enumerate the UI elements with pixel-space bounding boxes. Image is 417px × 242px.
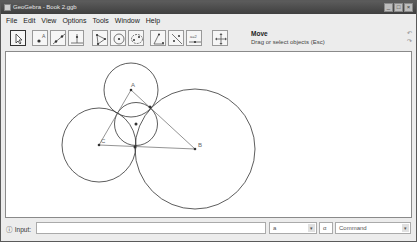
move-graphics-icon — [213, 31, 229, 47]
angle-icon — [151, 31, 167, 47]
undo-icon[interactable]: ↶ — [407, 29, 412, 37]
menu-tools[interactable]: Tools — [93, 15, 109, 26]
toolbar: A a=2 Move Drag or select objects ( — [4, 27, 414, 49]
label-b: B — [198, 142, 202, 148]
circle-center-point-icon — [111, 31, 127, 47]
menu-help[interactable]: Help — [146, 15, 160, 26]
mode-title: Move — [251, 30, 268, 37]
menu-options[interactable]: Options — [62, 15, 86, 26]
cursor-arrow-icon — [11, 31, 27, 47]
line-through-points-icon — [51, 31, 67, 47]
tangent-point-ab — [149, 106, 152, 109]
point-a — [130, 89, 133, 92]
greek-dropdown[interactable]: α — [319, 222, 333, 234]
circle-tool[interactable] — [110, 30, 126, 46]
line-tool[interactable] — [50, 30, 66, 46]
svg-text:A: A — [42, 33, 46, 39]
chevron-down-icon: ▾ — [402, 224, 409, 232]
menu-window[interactable]: Window — [115, 15, 140, 26]
menu-file[interactable]: File — [6, 15, 17, 26]
slider-icon: a=2 — [187, 31, 203, 47]
label-a: A — [131, 82, 135, 88]
polygon-tool[interactable] — [92, 30, 108, 46]
minimize-button[interactable]: _ — [384, 3, 393, 12]
point-c — [98, 144, 101, 147]
geogebra-window: GeoGebra - Book 2.ggb _ □ × File Edit Vi… — [0, 0, 417, 242]
input-label: ⓘ Input: — [6, 224, 31, 234]
point-icon: A — [33, 31, 49, 47]
polygon-icon — [93, 31, 109, 47]
input-bar: ⓘ Input: a▾ α Command▾ — [4, 221, 414, 237]
mode-help-text: Drag or select objects (Esc) — [251, 39, 325, 45]
new-point-tool[interactable]: A — [32, 30, 48, 46]
redo-icon[interactable]: ↷ — [407, 37, 412, 45]
angle-tool[interactable] — [150, 30, 166, 46]
slider-tool[interactable]: a=2 — [186, 30, 202, 46]
window-title: GeoGebra - Book 2.ggb — [13, 1, 77, 14]
menu-bar: File Edit View Options Tools Window Help — [3, 15, 160, 26]
tangent-point-bc — [134, 146, 137, 149]
graphics-view[interactable]: A B C — [5, 51, 412, 218]
svg-text:a=2: a=2 — [190, 34, 198, 39]
conic-tool[interactable] — [128, 30, 144, 46]
input-field[interactable] — [36, 222, 266, 234]
reflect-icon — [169, 31, 185, 47]
move-tool[interactable] — [10, 30, 26, 46]
move-graphics-tool[interactable] — [212, 30, 228, 46]
close-button[interactable]: × — [404, 3, 413, 12]
geometry-drawing: A B C — [6, 52, 411, 217]
menu-edit[interactable]: Edit — [23, 15, 35, 26]
maximize-button[interactable]: □ — [394, 3, 403, 12]
geogebra-app-icon — [4, 4, 11, 11]
chevron-down-icon: ▾ — [308, 224, 315, 232]
perpendicular-line-tool[interactable] — [68, 30, 84, 46]
point-b — [194, 148, 197, 151]
label-c: C — [101, 138, 106, 144]
conic-icon — [129, 31, 145, 47]
incenter-point — [135, 123, 138, 126]
triangle-abc — [99, 90, 195, 149]
command-dropdown[interactable]: Command▾ — [335, 222, 411, 234]
reflect-tool[interactable] — [168, 30, 184, 46]
menu-view[interactable]: View — [41, 15, 56, 26]
title-bar: GeoGebra - Book 2.ggb _ □ × — [1, 1, 416, 14]
perpendicular-icon — [69, 31, 85, 47]
symbol-dropdown[interactable]: a▾ — [269, 222, 317, 234]
